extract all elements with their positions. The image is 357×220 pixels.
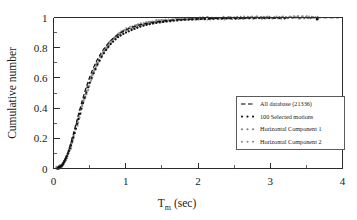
series-point xyxy=(77,125,79,127)
series-point xyxy=(169,20,171,22)
series-point xyxy=(87,86,89,88)
y-axis-title-text: Cumulative number xyxy=(6,47,18,139)
series-point xyxy=(122,33,124,35)
y-tick-label: 1 xyxy=(42,12,48,24)
series-point xyxy=(125,31,127,33)
legend-dot xyxy=(252,141,254,143)
series-point xyxy=(90,80,92,82)
series-point xyxy=(302,15,304,17)
series-point xyxy=(84,97,86,99)
series-point xyxy=(129,26,131,28)
series-point xyxy=(133,28,135,30)
series-point xyxy=(98,59,100,61)
y-tick-label: 0.2 xyxy=(34,132,48,144)
series-point xyxy=(68,150,70,152)
series-point xyxy=(162,21,164,23)
series-point xyxy=(67,153,69,155)
series-point xyxy=(75,127,77,129)
series-point xyxy=(165,20,167,22)
series-point xyxy=(89,81,91,83)
legend-dot xyxy=(241,116,243,118)
legend-dot xyxy=(252,116,254,118)
series-point xyxy=(110,43,112,45)
series-point xyxy=(139,26,141,28)
series-point xyxy=(71,140,73,142)
series-point xyxy=(87,89,89,91)
series-point xyxy=(188,18,190,20)
series-point xyxy=(136,27,138,29)
x-tick-label: 3 xyxy=(268,175,274,187)
x-axis-title-unit: (sec) xyxy=(171,197,196,210)
series-point xyxy=(101,56,103,58)
series-point xyxy=(200,18,202,20)
series-point xyxy=(77,118,79,120)
series-point xyxy=(80,107,82,109)
legend-label: All database (21336) xyxy=(260,100,312,108)
series-point xyxy=(91,77,93,79)
x-tick-label: 1 xyxy=(123,175,129,187)
y-tick-label: 0.6 xyxy=(34,72,48,84)
series-point xyxy=(70,144,72,146)
x-axis-title-main: T xyxy=(158,197,165,209)
legend-dot xyxy=(241,141,243,143)
series-point xyxy=(79,113,81,115)
legend-label: 100 Selected motions xyxy=(260,113,314,120)
series-point xyxy=(208,18,210,20)
series-point xyxy=(192,18,194,20)
series-point xyxy=(152,22,154,24)
series-point xyxy=(293,15,295,17)
series-point xyxy=(73,132,75,134)
legend-dot xyxy=(252,128,254,130)
series-point xyxy=(94,68,96,70)
series-point xyxy=(158,21,160,23)
series-point xyxy=(91,75,93,77)
legend-label: Horizontal Component 2 xyxy=(260,138,322,145)
series-point xyxy=(105,49,107,51)
series-point xyxy=(173,20,175,22)
series-point xyxy=(103,52,105,54)
series-point xyxy=(184,19,186,21)
series-point xyxy=(130,29,132,31)
series-point xyxy=(142,25,144,27)
y-tick-label: 0.8 xyxy=(34,42,48,54)
series-point xyxy=(107,46,109,48)
chart-figure: 0123400.20.40.60.81 Tm (sec) Cumulative … xyxy=(0,0,357,220)
legend-dot xyxy=(246,116,248,118)
x-tick-label: 4 xyxy=(340,175,346,187)
series-point xyxy=(69,147,71,149)
series-point xyxy=(117,36,119,38)
series-point xyxy=(196,18,198,20)
series-point xyxy=(114,38,116,40)
series-point xyxy=(297,15,299,17)
chart-legend: All database (21336)100 Selected motions… xyxy=(237,97,345,150)
series-point xyxy=(79,116,81,118)
x-tick-label: 2 xyxy=(195,175,201,187)
series-point xyxy=(176,19,178,21)
series-point xyxy=(81,104,83,106)
series-point xyxy=(155,22,157,24)
series-point xyxy=(76,123,78,125)
x-tick-label: 0 xyxy=(51,175,57,187)
series-point xyxy=(128,30,130,32)
series-point xyxy=(66,155,68,157)
series-point xyxy=(92,72,94,74)
series-point xyxy=(96,63,98,65)
legend-dot xyxy=(246,141,248,143)
series-point xyxy=(204,18,206,20)
series-point xyxy=(85,91,87,93)
y-axis-title: Cumulative number xyxy=(6,47,18,139)
series-point xyxy=(145,24,147,26)
series-point xyxy=(120,34,122,36)
series-point xyxy=(82,102,84,104)
legend-label: Horizontal Component 1 xyxy=(260,125,322,132)
series-point xyxy=(149,23,151,25)
series-point xyxy=(72,136,74,138)
y-tick-label: 0.4 xyxy=(34,102,48,114)
series-point xyxy=(65,157,67,159)
series-point xyxy=(112,40,114,42)
legend-dot xyxy=(241,128,243,130)
series-point xyxy=(180,19,182,21)
legend-dot xyxy=(246,128,248,130)
cumulative-number-chart: 0123400.20.40.60.81 Tm (sec) Cumulative … xyxy=(0,0,357,220)
y-tick-label: 0 xyxy=(42,163,48,175)
